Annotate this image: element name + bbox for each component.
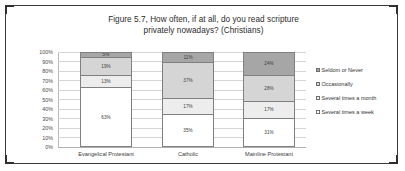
y-axis-tick-30: 30% [42,116,53,122]
y-axis-tick-0: 0% [45,144,53,150]
y-axis-tick-10: 10% [42,135,53,141]
bar-segment-value-label: 63% [101,115,111,120]
bar-segment[interactable]: 24% [243,52,295,75]
legend-item-label: Seldom or Never [322,67,363,73]
bar-segment-value-label: 17% [183,104,193,109]
frame-corner-bottom-left [5,155,14,164]
legend-item[interactable]: Occasionally [316,77,398,91]
chart-title: Figure 5.7, How often, if at all, do you… [46,14,361,36]
chart-title-line-1: Figure 5.7, How often, if at all, do you… [108,15,299,24]
bar-segment[interactable]: 37% [162,62,214,97]
legend-item-label: Several times a week [322,109,374,115]
y-axis-tick-40: 40% [42,106,53,112]
y-axis-tick-90: 90% [42,59,53,65]
legend-swatch-icon [316,82,320,86]
bar-segment[interactable]: 63% [80,87,132,147]
bar-segment[interactable]: 17% [162,98,214,114]
bar-segment-value-label: 13% [101,79,111,84]
legend-swatch-icon [316,110,320,114]
y-axis-tick-100: 100% [39,49,53,55]
bar-segment-value-label: 24% [264,61,274,66]
plot-area: 5%19%13%63% 11%37%17%35% 24%28%17%31% [58,52,306,147]
category-label-0: Evangelical Protestant [60,151,152,157]
y-axis-tick-80: 80% [42,68,53,74]
figure-frame: Figure 5.7, How often, if at all, do you… [5,5,398,164]
bar-segment-value-label: 28% [264,86,274,91]
legend-swatch-icon [316,96,320,100]
y-axis-tick-50: 50% [42,97,53,103]
y-axis-tick-60: 60% [42,87,53,93]
stacked-bar-evangelical-protestant[interactable]: 5%19%13%63% [80,52,132,147]
frame-corner-bottom-right [389,155,398,164]
chart-legend: Seldom or NeverOccasionallySeveral times… [316,63,398,119]
stacked-bar-mainline-protestant[interactable]: 24%28%17%31% [243,52,295,147]
x-axis-category-labels: Evangelical Protestant Catholic Mainline… [58,151,306,163]
bar-segment[interactable]: 35% [162,114,214,147]
bar-segment[interactable]: 17% [243,101,295,117]
category-label-2: Mainline Protestant [223,151,315,157]
category-label-1: Catholic [142,151,234,157]
chart-title-line-2: privately nowadays? (Christians) [46,25,361,36]
bar-segment-value-label: 31% [264,130,274,135]
bar-segment-value-label: 11% [183,55,192,60]
legend-swatch-icon [316,68,320,72]
stacked-bar-catholic[interactable]: 11%37%17%35% [162,52,214,147]
legend-item[interactable]: Several times a month [316,91,398,105]
y-axis-tick-labels: 100%90%80%70%60%50%40%30%20%10%0% [28,52,55,147]
y-axis-tick-20: 20% [42,125,53,131]
legend-item-label: Occasionally [322,81,353,87]
bar-segment-value-label: 17% [264,107,274,112]
legend-item[interactable]: Several times a week [316,105,398,119]
bar-segment-value-label: 19% [101,64,111,69]
bar-segment[interactable]: 11% [162,52,214,62]
legend-item-label: Several times a month [322,95,377,101]
legend-item[interactable]: Seldom or Never [316,63,398,77]
y-axis-tick-70: 70% [42,78,53,84]
bar-segment-value-label: 37% [183,78,193,83]
frame-corner-top-right [389,5,398,14]
bar-segment[interactable]: 19% [80,57,132,75]
frame-corner-top-left [5,5,14,14]
bar-segment[interactable]: 13% [80,75,132,87]
bar-segment-value-label: 35% [183,128,193,133]
bar-segment[interactable]: 31% [243,118,295,147]
bar-segment[interactable]: 28% [243,75,295,102]
